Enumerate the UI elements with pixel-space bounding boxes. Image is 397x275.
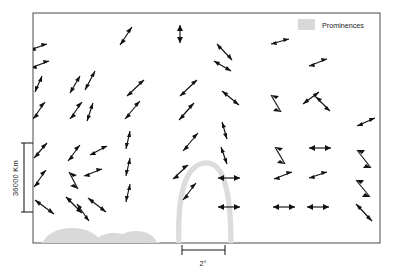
vector-field-figure: Prominences 36000 Km 2° [0,0,397,275]
scalebar-horizontal: 2° [182,245,225,268]
figure-root: Prominences 36000 Km 2° [0,0,397,275]
legend-label-prominences: Prominences [322,21,364,30]
legend-swatch-prominences [298,19,315,30]
scalebar-vertical: 36000 Km [11,143,33,212]
legend: Prominences [298,19,364,30]
scalebar-horizontal-label: 2° [199,259,206,268]
scalebar-vertical-label: 36000 Km [11,160,20,196]
plot-frame [33,13,380,243]
